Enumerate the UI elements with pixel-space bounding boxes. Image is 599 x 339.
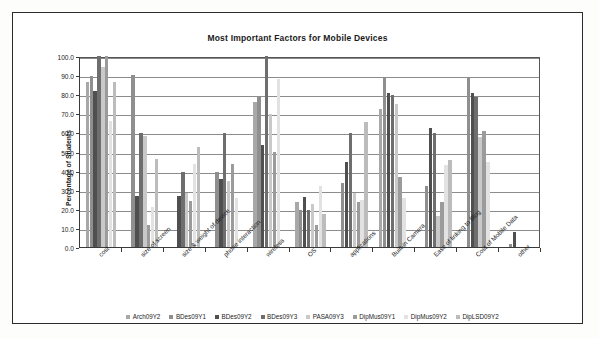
bar	[509, 244, 512, 247]
bar	[379, 109, 382, 247]
bar	[322, 214, 325, 247]
y-tick-label: 60.0	[61, 130, 74, 137]
legend-item[interactable]: DipLSD09Y2	[456, 313, 499, 320]
bar	[97, 56, 100, 247]
y-tick-label: 70.0	[61, 111, 74, 118]
bar	[391, 95, 394, 247]
bar-group	[415, 58, 457, 247]
x-tick-mark	[414, 248, 415, 252]
x-tick-mark	[456, 248, 457, 252]
y-tick-mark	[76, 76, 79, 77]
chart-frame: Most Important Factors for Mobile Device…	[12, 12, 583, 324]
bar	[101, 67, 104, 247]
legend-label: DipMus09Y2	[411, 313, 447, 320]
bar-group	[331, 58, 373, 247]
bar	[90, 76, 93, 247]
y-tick-mark	[76, 191, 79, 192]
legend-label: BDes09Y1	[176, 313, 206, 320]
y-tick-label: 90.0	[61, 73, 74, 80]
bar	[215, 172, 218, 247]
legend-item[interactable]: BDes09Y2	[215, 313, 252, 320]
legend-label: BDes09Y2	[221, 313, 251, 320]
y-tick-label: 10.0	[61, 225, 74, 232]
bar	[193, 164, 196, 247]
bar-group	[373, 58, 415, 247]
bar-group	[457, 58, 499, 247]
bar	[383, 78, 386, 247]
legend-item[interactable]: DipMus09Y2	[404, 313, 447, 320]
legend-label: DipMus09Y1	[359, 313, 395, 320]
bar	[139, 133, 142, 247]
bar	[364, 122, 367, 247]
bar-group	[206, 58, 248, 247]
x-tick-mark	[372, 248, 373, 252]
x-tick-mark	[121, 248, 122, 252]
bar	[311, 204, 314, 247]
y-tick-mark	[76, 114, 79, 115]
legend-label: Arch09Y2	[133, 313, 161, 320]
bar-group	[248, 58, 290, 247]
bar	[269, 114, 272, 247]
legend-item[interactable]: DipMus09Y1	[353, 313, 396, 320]
bar	[177, 196, 180, 247]
bar-group	[290, 58, 332, 247]
bar	[303, 197, 306, 247]
bar-group	[80, 58, 122, 247]
legend-item[interactable]: BDes09Y1	[169, 313, 206, 320]
legend-swatch-icon	[456, 315, 460, 319]
bar	[277, 79, 280, 247]
x-tick-mark	[163, 248, 164, 252]
bar	[429, 128, 432, 247]
y-tick-label: 80.0	[61, 92, 74, 99]
y-tick-mark	[76, 95, 79, 96]
chart-legend: Arch09Y2BDes09Y1BDes09Y2BDes09Y3PASA09Y3…	[27, 313, 598, 320]
legend-label: DipLSD09Y2	[462, 313, 498, 320]
legend-label: PASA09Y3	[313, 313, 344, 320]
y-tick-mark	[76, 57, 79, 58]
legend-swatch-icon	[261, 315, 265, 319]
bar	[395, 104, 398, 247]
y-tick-mark	[76, 153, 79, 154]
legend-item[interactable]: BDes09Y3	[261, 313, 298, 320]
bar-group	[499, 58, 541, 247]
y-tick-label: 30.0	[61, 187, 74, 194]
y-tick-mark	[76, 229, 79, 230]
x-tick-mark	[247, 248, 248, 252]
bar	[482, 131, 485, 247]
x-category-label: OS	[306, 246, 317, 257]
bar	[425, 186, 428, 247]
legend-item[interactable]: PASA09Y3	[306, 313, 344, 320]
bar	[471, 93, 474, 247]
y-tick-mark	[76, 133, 79, 134]
legend-swatch-icon	[126, 315, 130, 319]
bar	[105, 56, 108, 247]
y-tick-mark	[76, 172, 79, 173]
bar	[93, 91, 96, 247]
y-tick-mark	[76, 210, 79, 211]
bar	[474, 97, 477, 247]
bar	[295, 202, 298, 247]
x-tick-mark	[205, 248, 206, 252]
legend-item[interactable]: Arch09Y2	[126, 313, 160, 320]
x-tick-mark	[540, 248, 541, 252]
bar	[307, 210, 310, 247]
bar	[319, 186, 322, 247]
bar	[223, 133, 226, 247]
legend-swatch-icon	[215, 315, 219, 319]
bar	[299, 210, 302, 247]
bar	[143, 136, 146, 247]
bar	[273, 152, 276, 247]
bar	[231, 164, 234, 247]
bar	[433, 133, 436, 247]
legend-swatch-icon	[353, 315, 357, 319]
bar	[486, 162, 489, 247]
bar	[478, 137, 481, 247]
bar-group	[122, 58, 164, 247]
bar	[387, 93, 390, 247]
bar	[315, 225, 318, 247]
bar	[131, 75, 134, 247]
x-tick-mark	[330, 248, 331, 252]
bar	[436, 216, 439, 248]
bar	[349, 133, 352, 247]
legend-swatch-icon	[306, 315, 310, 319]
